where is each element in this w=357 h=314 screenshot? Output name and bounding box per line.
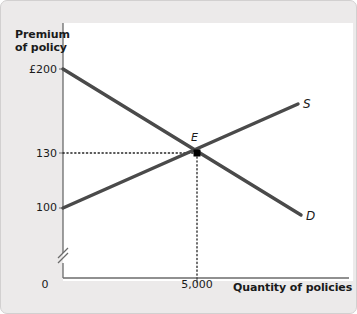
figure-container: Premium of policy Quantity of policies £… [0,0,357,314]
axis-break-icon [58,253,68,263]
y-tick-label-200: £200 [9,63,57,76]
y-tick-label-130: 130 [9,147,57,160]
equilibrium-point-label: E [191,131,198,144]
x-tick-label-5000: 5,000 [173,278,221,291]
demand-curve-label: D [306,209,315,223]
y-axis-title-line2: of policy [15,42,73,55]
equilibrium-marker [194,150,201,157]
x-tick-label-origin: 0 [33,278,57,291]
supply-curve-label: S [303,97,311,111]
y-axis-title-line1: Premium [15,29,73,42]
y-tick-label-100: 100 [9,201,57,214]
x-axis-title: Quantity of policies [233,282,352,295]
y-axis-title: Premium of policy [15,29,73,54]
